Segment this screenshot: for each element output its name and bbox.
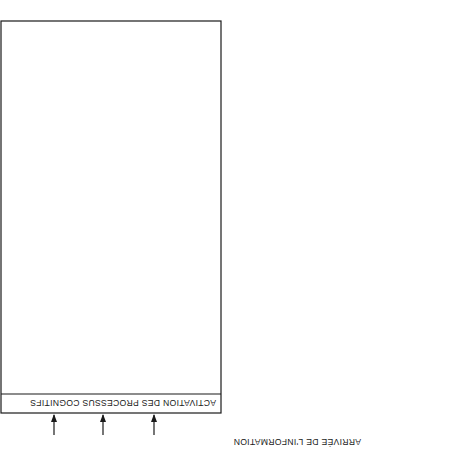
activation-title: ACTIVATION DES PROCESSUS COGNITIFS — [30, 398, 216, 408]
diagram-canvas: ARRIVÉE DE L'INFORMATION ACTIVATION DES … — [0, 0, 464, 455]
activation-panel: ACTIVATION DES PROCESSUS COGNITIFS — [1, 21, 221, 413]
input-arrows — [54, 415, 154, 435]
input-label: ARRIVÉE DE L'INFORMATION — [233, 437, 361, 447]
